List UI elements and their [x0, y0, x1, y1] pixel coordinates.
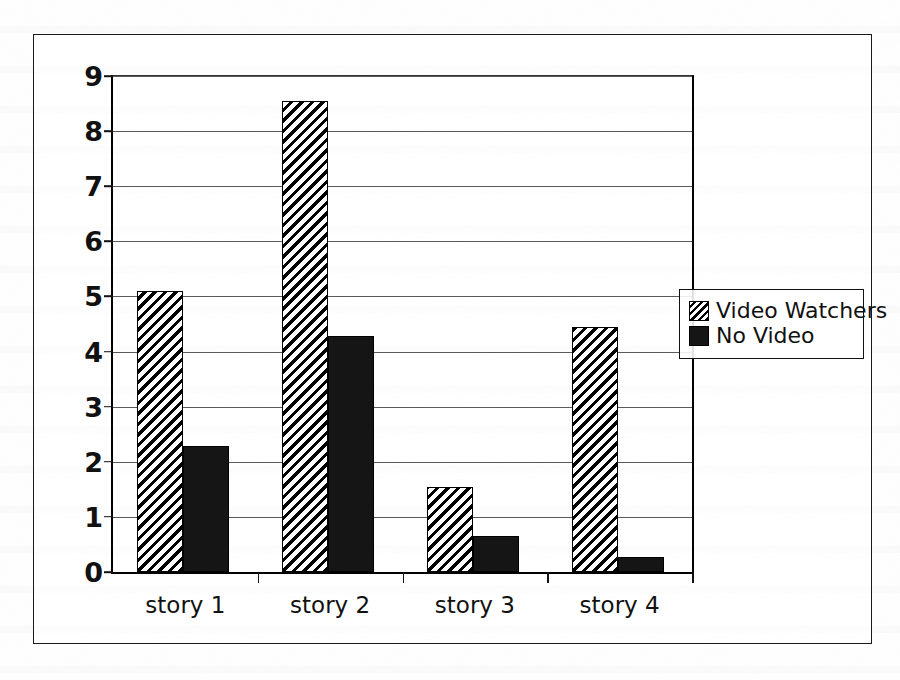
x-axis-category-label: story 3 [435, 594, 515, 617]
y-axis-tick-label: 7 [84, 173, 103, 200]
y-axis-tick-mark [104, 571, 113, 573]
y-axis-tick-label: 5 [84, 283, 103, 310]
legend-item-label: Video Watchers [716, 299, 887, 322]
y-axis-tick-mark [104, 461, 113, 463]
bar [183, 446, 229, 572]
bar [282, 101, 328, 572]
y-axis-tick-label: 4 [84, 338, 103, 365]
bar [328, 336, 374, 572]
chart-frame: 0123456789story 1story 2story 3story 4 V… [33, 34, 872, 644]
y-axis-tick-mark [104, 351, 113, 353]
x-axis-tick-mark [403, 572, 405, 583]
x-axis-category-label: story 2 [290, 594, 370, 617]
x-axis-category-label: story 4 [580, 594, 660, 617]
y-axis-tick-mark [104, 185, 113, 187]
y-axis-tick-label: 3 [84, 393, 103, 420]
gridline [113, 186, 692, 187]
y-axis-tick-label: 0 [84, 559, 103, 586]
chart-legend: Video Watchers No Video [679, 289, 864, 359]
y-axis-tick-mark [104, 75, 113, 77]
y-axis-tick-label: 6 [84, 228, 103, 255]
gridline [113, 131, 692, 132]
bar [618, 557, 664, 572]
x-axis-category-label: story 1 [145, 594, 225, 617]
legend-item-no-video: No Video [689, 324, 853, 347]
y-axis-tick-mark [104, 130, 113, 132]
y-axis-tick-label: 2 [84, 448, 103, 475]
y-axis-tick-label: 9 [84, 63, 103, 90]
y-axis-tick-label: 8 [84, 118, 103, 145]
gridline [113, 241, 692, 242]
plot-area: 0123456789story 1story 2story 3story 4 [111, 75, 694, 574]
gridline [113, 76, 692, 77]
x-axis-tick-mark [692, 572, 694, 583]
y-axis-tick-mark [104, 516, 113, 518]
gridline [113, 296, 692, 297]
x-axis-tick-mark [258, 572, 260, 583]
x-axis-tick-mark [547, 572, 549, 583]
hatched-swatch-icon [689, 301, 709, 321]
bar [572, 327, 618, 572]
y-axis-tick-mark [104, 241, 113, 243]
legend-item-video-watchers: Video Watchers [689, 299, 853, 322]
y-axis-tick-label: 1 [84, 503, 103, 530]
y-axis-tick-mark [104, 406, 113, 408]
solid-swatch-icon [689, 326, 709, 346]
y-axis-tick-mark [104, 296, 113, 298]
bar [473, 536, 519, 572]
legend-item-label: No Video [716, 324, 815, 347]
bar [427, 487, 473, 572]
bar [137, 291, 183, 572]
